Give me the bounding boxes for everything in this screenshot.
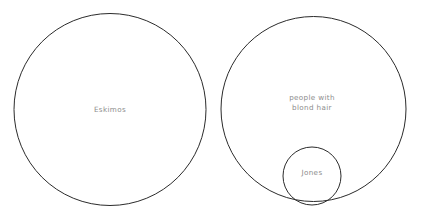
label-people-with-blond-hair: people with blond hair — [262, 93, 362, 113]
label-jones: Jones — [262, 168, 362, 178]
label-eskimos: Eskimos — [60, 105, 160, 115]
euler-diagram: Eskimos people with blond hair Jones — [0, 0, 421, 216]
